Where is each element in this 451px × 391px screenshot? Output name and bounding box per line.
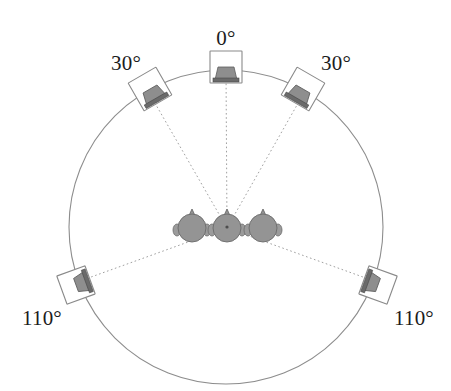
listener-center [208, 209, 246, 242]
listener-left [173, 209, 211, 242]
diagram-canvas: 0° 30° 30° 110° 110° [0, 0, 451, 391]
listener-center-sweet-spot [225, 225, 228, 228]
speaker-surround-right[interactable] [359, 266, 397, 304]
label-front-left: 30° [111, 51, 141, 75]
listener-right [244, 209, 282, 242]
listener-right-head [249, 214, 277, 242]
listener-left-head [178, 214, 206, 242]
ray-surround-left [80, 228, 227, 281]
label-center-front: 0° [216, 26, 235, 50]
label-surround-right: 110° [394, 306, 434, 330]
label-front-right: 30° [321, 51, 351, 75]
ray-group [80, 70, 374, 281]
speaker-layout-diagram: 0° 30° 30° 110° 110° [0, 0, 451, 391]
speaker-center-base [213, 78, 239, 82]
speaker-front-right[interactable] [281, 67, 325, 111]
speaker-center[interactable] [210, 51, 242, 83]
ray-center [226, 70, 227, 228]
speaker-surround-left[interactable] [57, 266, 95, 304]
ray-front-right [227, 91, 305, 228]
label-surround-left: 110° [22, 306, 62, 330]
ray-front-left [148, 91, 227, 228]
